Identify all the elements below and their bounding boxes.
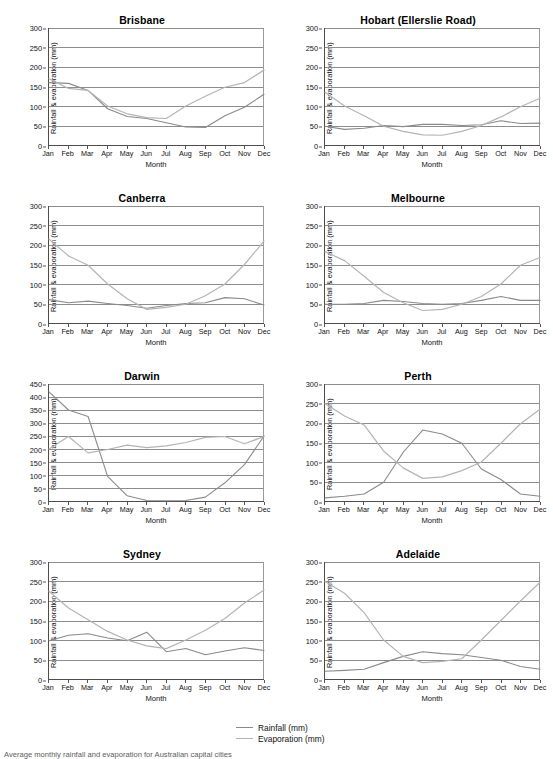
x-tick-label: Jan	[42, 683, 54, 692]
x-tick-label: Oct	[495, 149, 506, 158]
x-tick-label: Jan	[318, 149, 330, 158]
y-tick-label: 300	[306, 380, 318, 389]
legend-item-evaporation: Evaporation (mm)	[236, 733, 325, 744]
y-tick-label: 200	[306, 63, 318, 72]
x-tick-label: Oct	[219, 327, 230, 336]
x-tick-label: Apr	[377, 683, 388, 692]
x-tick-label: Feb	[337, 327, 349, 336]
chart-panel-melbourne: MelbourneRainfall & evaporation (mm)0501…	[280, 186, 553, 364]
y-tick-label: 100	[306, 102, 318, 111]
x-tick-label: Mar	[81, 683, 93, 692]
x-tick-label: Dec	[534, 683, 547, 692]
chart-panel-darwin: DarwinRainfall & evaporation (mm)0501001…	[4, 364, 280, 542]
y-tick-label: 100	[30, 102, 42, 111]
y-tick-label: 300	[30, 558, 42, 567]
plot-area	[48, 562, 264, 680]
figure-caption: Average monthly rainfall and evaporation…	[4, 750, 524, 759]
plot-area-wrapper: Rainfall & evaporation (mm)0501001502002…	[324, 384, 540, 502]
y-tick-label: 150	[306, 439, 318, 448]
x-axis-tick-labels: JanFebMarAprMayJunJulAugSepOctNovDec	[324, 683, 540, 693]
x-tick-label: Aug	[179, 683, 192, 692]
x-tick-label: Jan	[42, 149, 54, 158]
x-tick-label: May	[120, 327, 134, 336]
x-tick-label: Feb	[61, 327, 73, 336]
series-line-rainfall	[49, 632, 264, 655]
y-axis-ticks: 050100150200250300	[296, 206, 322, 324]
x-tick-label: May	[120, 683, 134, 692]
chart-title: Darwin	[4, 370, 280, 382]
y-tick-label: 250	[306, 43, 318, 52]
x-tick-label: Mar	[81, 327, 93, 336]
x-axis: JanFebMarAprMayJunJulAugSepOctNovDec	[48, 146, 264, 159]
x-tick-label: Jun	[140, 327, 152, 336]
x-tick-label: May	[396, 505, 410, 514]
x-tick-label: Apr	[101, 683, 112, 692]
y-tick-label: 250	[306, 399, 318, 408]
x-tick-label: Jun	[416, 505, 428, 514]
series-line-evaporation	[325, 582, 540, 663]
series-line-rainfall	[49, 298, 264, 309]
x-tick-label: Nov	[514, 683, 527, 692]
chart-panel-sydney: SydneyRainfall & evaporation (mm)0501001…	[4, 542, 280, 720]
x-tick-label: Oct	[219, 505, 230, 514]
plot-area	[324, 384, 540, 502]
y-tick-label: 200	[306, 597, 318, 606]
chart-panel-hobart-ellerslie-road: Hobart (Ellerslie Road)Rainfall & evapor…	[280, 8, 553, 186]
y-tick-label: 200	[306, 241, 318, 250]
plot-area	[48, 28, 264, 146]
x-tick-label: Mar	[357, 327, 369, 336]
plot-area	[48, 384, 264, 502]
chart-panel-adelaide: AdelaideRainfall & evaporation (mm)05010…	[280, 542, 553, 720]
x-tick-label: Aug	[455, 149, 468, 158]
x-tick-label: Jul	[437, 683, 446, 692]
x-tick-label: Jul	[437, 505, 446, 514]
y-axis-ticks: 050100150200250300	[20, 562, 46, 680]
x-tick-label: Sep	[199, 149, 212, 158]
legend-line-swatch-rainfall	[236, 727, 253, 728]
y-tick-label: 50	[34, 300, 42, 309]
x-tick-label: Dec	[258, 505, 271, 514]
x-axis-tick-labels: JanFebMarAprMayJunJulAugSepOctNovDec	[48, 683, 264, 693]
x-tick-label: Nov	[238, 327, 251, 336]
x-tick-label: Sep	[199, 327, 212, 336]
legend-line-swatch-evaporation	[236, 738, 253, 739]
series-line-rainfall	[325, 121, 540, 130]
x-axis-tick-labels: JanFebMarAprMayJunJulAugSepOctNovDec	[324, 149, 540, 159]
y-tick-label: 300	[306, 24, 318, 33]
series-plot	[325, 206, 540, 323]
x-tick-label: Nov	[238, 683, 251, 692]
y-tick-label: 50	[34, 122, 42, 131]
y-tick-label: 150	[306, 83, 318, 92]
x-tick-label: Nov	[238, 149, 251, 158]
chart-panel-perth: PerthRainfall & evaporation (mm)05010015…	[280, 364, 553, 542]
series-line-evaporation	[325, 404, 540, 479]
x-tick-label: Nov	[514, 327, 527, 336]
x-tick-label: Dec	[258, 327, 271, 336]
series-line-evaporation	[49, 239, 264, 309]
x-tick-label: Jun	[140, 505, 152, 514]
x-axis-label: Month	[324, 338, 540, 347]
x-tick-label: Oct	[495, 683, 506, 692]
chart-title: Sydney	[4, 548, 280, 560]
y-tick-label: 250	[306, 221, 318, 230]
x-tick-label: Sep	[199, 683, 212, 692]
y-tick-label: 150	[30, 617, 42, 626]
x-tick-label: Apr	[101, 149, 112, 158]
y-tick-label: 200	[306, 419, 318, 428]
series-line-evaporation	[49, 590, 264, 649]
y-tick-label: 150	[30, 458, 42, 467]
x-axis-tick-labels: JanFebMarAprMayJunJulAugSepOctNovDec	[48, 149, 264, 159]
x-tick-label: Nov	[514, 505, 527, 514]
x-tick-label: Dec	[258, 683, 271, 692]
y-tick-label: 100	[306, 458, 318, 467]
y-axis-ticks: 050100150200250300	[296, 384, 322, 502]
x-tick-label: May	[396, 683, 410, 692]
x-tick-label: Aug	[179, 327, 192, 336]
y-tick-label: 450	[30, 380, 42, 389]
x-tick-label: Apr	[377, 505, 388, 514]
x-tick-label: Sep	[475, 149, 488, 158]
x-axis-label: Month	[324, 516, 540, 525]
y-tick-label: 100	[306, 280, 318, 289]
x-tick-label: Jun	[140, 149, 152, 158]
chart-title: Canberra	[4, 192, 280, 204]
